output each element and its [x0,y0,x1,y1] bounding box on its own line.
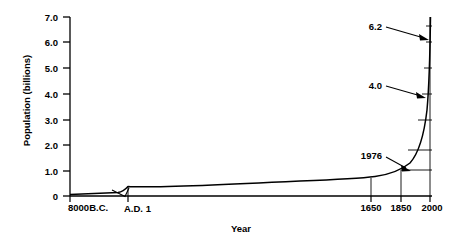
chart-canvas: 7.0 6.0 5.0 4.0 3.0 2.0 1.0 0 [0,0,462,247]
y-tick-label-6: 6.0 [45,37,58,48]
y-tick-label-4: 4.0 [45,89,58,100]
annotation-leader-4-0 [386,86,421,96]
x-tick-label-1650: 1650 [360,202,381,213]
x-tick-label-2000: 2000 [421,202,442,213]
annotation-arrowhead-6-2 [419,34,429,41]
population-growth-chart: Population (billions) 7.0 6.0 5.0 4.0 3.… [0,0,462,247]
annotation-label-6-2: 6.2 [369,21,382,32]
y-tick-label-1: 1.0 [45,166,58,177]
annotation-leader-6-2 [386,27,424,38]
annotation-label-1976: 1976 [361,150,382,161]
annotation-arrowhead-4-0 [416,92,426,99]
reference-drop-lines [128,17,430,196]
x-tick-label-ad1: A.D. 1 [124,203,152,214]
population-curve [70,17,431,195]
x-tick-label-8000bc: 8000B.C. [68,202,108,213]
y-tick-label-5: 5.0 [45,63,58,74]
y-axis-ticks [63,17,70,196]
y-tick-label-2: 2.0 [45,140,58,151]
y-tick-label-7: 7.0 [45,12,58,23]
y-tick-label-3: 3.0 [45,115,58,126]
annotation-label-4-0: 4.0 [369,80,382,91]
y-axis-title: Population (billions) [21,31,32,171]
x-tick-label-1850: 1850 [390,202,411,213]
x-axis-title: Year [231,223,251,234]
y-tick-label-0: 0 [53,191,58,202]
